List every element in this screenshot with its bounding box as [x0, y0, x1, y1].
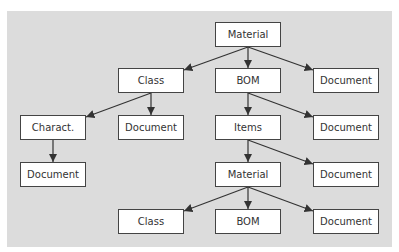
- node-document: Document: [118, 115, 184, 140]
- edge-arrow: [248, 140, 313, 164]
- node-bom: BOM: [215, 68, 281, 93]
- edge-arrow: [248, 93, 313, 117]
- edge-arrow: [248, 187, 313, 211]
- node-items: Items: [215, 115, 281, 140]
- edge-arrow: [86, 93, 151, 117]
- node-document: Document: [313, 115, 379, 140]
- node-document: Document: [20, 162, 86, 187]
- edge-arrow: [184, 47, 248, 70]
- node-document: Document: [313, 209, 379, 234]
- edge-arrow: [184, 187, 248, 211]
- node-class: Class: [118, 209, 184, 234]
- node-document: Document: [313, 162, 379, 187]
- node-class: Class: [118, 68, 184, 93]
- node-material-root: Material: [215, 22, 281, 47]
- node-bom: BOM: [215, 209, 281, 234]
- node-charact: Charact.: [20, 115, 86, 140]
- node-material: Material: [215, 162, 281, 187]
- node-document: Document: [313, 68, 379, 93]
- edge-arrow: [248, 47, 313, 70]
